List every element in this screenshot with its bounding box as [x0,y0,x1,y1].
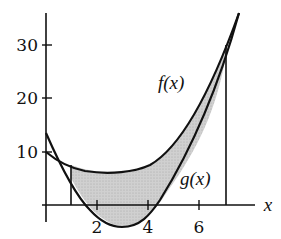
x-tick-label-6: 6 [194,217,205,237]
x-tick-label-2: 2 [92,217,103,237]
f-label: f(x) [158,72,184,94]
x-axis-label: x [263,194,273,215]
x-tick-label-4: 4 [143,217,154,237]
y-tick-label-20: 20 [16,88,38,108]
g-label: g(x) [180,168,211,190]
shaded-region [71,45,226,227]
y-tick-label-30: 30 [16,35,38,55]
y-tick-label-10: 10 [16,142,38,162]
chart: 30 20 10 2 4 6 x f(x) g(x) [0,0,281,239]
